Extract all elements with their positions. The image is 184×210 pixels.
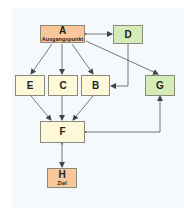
node-h-sublabel: Ziel <box>57 180 66 186</box>
node-a-label: A <box>59 26 66 36</box>
edges-layer <box>0 0 184 210</box>
node-b: B <box>81 75 110 96</box>
node-f: F <box>40 121 85 143</box>
node-e-label: E <box>27 81 34 91</box>
node-h-goal: H Ziel <box>47 168 77 188</box>
node-d: D <box>113 25 143 44</box>
node-f-label: F <box>59 127 65 137</box>
node-d-label: D <box>124 30 131 40</box>
node-g-label: G <box>156 81 164 91</box>
edge-f-g <box>86 96 160 132</box>
node-a-sublabel: Ausgangspunkt <box>42 36 84 42</box>
edge-a-e <box>31 44 52 74</box>
edge-a-b <box>72 44 93 74</box>
node-c: C <box>48 75 78 96</box>
node-b-label: B <box>92 81 99 91</box>
edge-a-g <box>86 41 158 74</box>
node-h-label: H <box>58 170 65 180</box>
node-a-start: A Ausgangspunkt <box>40 25 85 43</box>
edge-b-f <box>73 96 93 120</box>
node-c-label: C <box>59 81 66 91</box>
node-g: G <box>145 75 175 96</box>
edge-d-b <box>111 44 128 86</box>
node-e: E <box>15 75 45 96</box>
edge-e-f <box>31 96 51 120</box>
